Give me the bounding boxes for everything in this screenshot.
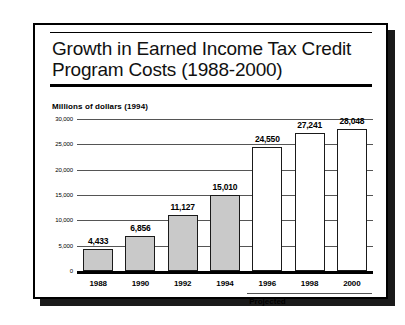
chart-plot-area: 5,00010,00015,00020,00025,00030,00004,43…	[77, 119, 373, 271]
x-axis-tick-label: 1992	[166, 279, 200, 288]
y-axis-tick-label: 5,000	[58, 243, 73, 249]
y-axis-tick-label: 25,000	[55, 141, 73, 147]
bar-column[interactable]: 27,241	[293, 119, 327, 271]
x-axis-tick-label: 1994	[208, 279, 242, 288]
bar-1994[interactable]	[210, 195, 240, 271]
x-axis-tick-label: 1988	[81, 279, 115, 288]
bar-value-label: 24,550	[255, 134, 280, 144]
bar-value-label: 6,856	[130, 223, 150, 233]
bar-1996[interactable]	[252, 147, 282, 271]
bar-column[interactable]: 28,048	[335, 119, 369, 271]
chart-plot-wrapper: 5,00010,00015,00020,00025,00030,00004,43…	[35, 113, 386, 297]
bar-column[interactable]: 4,433	[81, 119, 115, 271]
x-axis-baseline	[77, 271, 373, 274]
bar-1990[interactable]	[125, 236, 155, 271]
y-axis-tick-label: 30,000	[55, 116, 73, 122]
bar-value-label: 27,241	[297, 120, 322, 130]
bar-value-label: 15,010	[213, 182, 238, 192]
bar-value-label: 4,433	[88, 236, 108, 246]
title-block: Growth in Earned Income Tax Credit Progr…	[50, 32, 372, 87]
bar-column[interactable]: 24,550	[250, 119, 284, 271]
slide-frame: Growth in Earned Income Tax Credit Progr…	[33, 23, 388, 299]
bar-column[interactable]: 6,856	[123, 119, 157, 271]
x-axis-tick-label: 2000	[335, 279, 369, 288]
projected-label: Projected	[249, 297, 285, 306]
bar-1998[interactable]	[295, 133, 325, 271]
x-axis-tick-label: 1996	[250, 279, 284, 288]
x-axis-tick-label: 1990	[123, 279, 157, 288]
bar-value-label: 28,048	[339, 116, 364, 126]
axis-units-label: Millions of dollars (1994)	[52, 102, 148, 111]
y-axis-tick-label: 10,000	[55, 217, 73, 223]
x-axis-tick-label: 1998	[293, 279, 327, 288]
bar-2000[interactable]	[337, 129, 367, 271]
projected-bracket-line	[247, 293, 372, 294]
title-rule-bottom	[50, 84, 372, 87]
y-axis-tick-label: 20,000	[55, 167, 73, 173]
bar-1988[interactable]	[83, 249, 113, 271]
bar-value-label: 11,127	[171, 202, 195, 212]
bar-1992[interactable]	[168, 215, 198, 271]
page-title: Growth in Earned Income Tax Credit Progr…	[50, 33, 372, 84]
y-axis-tick-label: 15,000	[55, 192, 73, 198]
bar-column[interactable]: 11,127	[166, 119, 200, 271]
y-axis-tick-label: 0	[70, 268, 73, 274]
bar-column[interactable]: 15,010	[208, 119, 242, 271]
